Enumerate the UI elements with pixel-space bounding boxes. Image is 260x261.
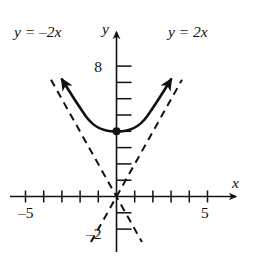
x-tick-label-minus5: –5 [17, 204, 34, 221]
x-axis-label: x [231, 174, 239, 191]
asymptote-positive-slope [91, 80, 182, 242]
vertex-point [113, 127, 121, 135]
x-tick-label-5: 5 [201, 204, 209, 221]
graph-figure: y = –2x y = 2x y x 8 –5 5 –2 [0, 0, 260, 261]
asymptote-negative-slope [51, 80, 142, 242]
right-asymptote-label: y = 2x [166, 23, 208, 40]
plot-canvas: y = –2x y = 2x y x 8 –5 5 –2 [0, 0, 260, 261]
y-tick-label-minus2: –2 [85, 225, 102, 242]
y-tick-label-8: 8 [94, 58, 102, 75]
y-axis-ticks [117, 66, 132, 229]
y-axis-label: y [100, 20, 109, 37]
left-asymptote-label: y = –2x [12, 23, 62, 40]
